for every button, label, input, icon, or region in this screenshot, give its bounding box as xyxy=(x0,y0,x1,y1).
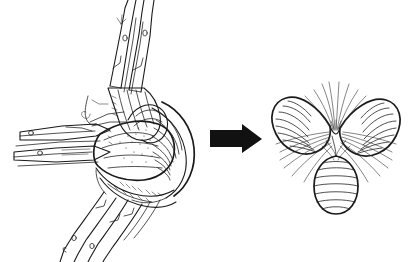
lower-pendant-lobe xyxy=(314,156,358,214)
transformation-arrow xyxy=(210,124,262,153)
lateral-view-drawing xyxy=(0,0,413,262)
left-bracts xyxy=(14,124,110,166)
ribbed-flank xyxy=(132,102,194,203)
upper-stalks xyxy=(110,0,154,94)
upper-left-lobe xyxy=(272,97,330,154)
figure-root xyxy=(0,0,413,262)
frontal-view-drawing xyxy=(272,82,400,214)
